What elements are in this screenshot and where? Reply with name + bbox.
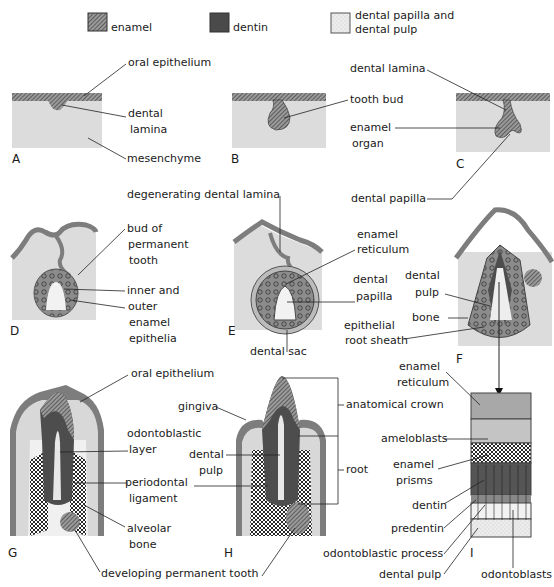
- legend-label-dentin: dentin: [233, 21, 268, 35]
- label-enamel-d: enamel: [129, 316, 170, 330]
- legend-label-enamel: enamel: [111, 21, 152, 35]
- label-layer: layer: [129, 443, 157, 457]
- panel-e-drawing: [234, 196, 355, 352]
- panel-letter-a: A: [12, 152, 20, 166]
- label-tooth-bud: tooth bud: [350, 93, 404, 107]
- label-pulp-h: pulp: [199, 464, 223, 478]
- label-tooth-d: tooth: [129, 254, 158, 268]
- legend-label-pulp: dental pulp: [355, 23, 417, 37]
- label-outer: outer: [128, 300, 157, 314]
- label-predentin: predentin: [391, 522, 444, 536]
- label-papilla-e: papilla: [356, 290, 393, 304]
- label-enamel-c: enamel: [350, 121, 391, 135]
- label-anatomical-crown: anatomical crown: [346, 398, 444, 412]
- label-alveolar: alveolar: [127, 522, 171, 536]
- label-enamel-prisms-1: enamel: [393, 458, 434, 472]
- label-bud-of: bud of: [127, 222, 162, 236]
- legend-swatch-papilla: [331, 13, 350, 33]
- label-mesenchyme: mesenchyme: [127, 152, 201, 166]
- tooth-development-figure: [0, 0, 554, 587]
- label-dental-f: dental: [405, 269, 440, 283]
- label-enamel-e: enamel: [357, 228, 398, 242]
- label-dental-papilla-c: dental papilla: [351, 192, 426, 206]
- panel-letter-d: D: [10, 324, 19, 338]
- label-dental-e: dental: [353, 273, 388, 287]
- panel-b-drawing: [232, 93, 348, 148]
- legend-label-papilla: dental papilla and: [355, 9, 454, 23]
- label-epithelia: epithelia: [129, 332, 177, 346]
- label-dental-h: dental: [189, 448, 224, 462]
- panel-letter-f: F: [456, 352, 463, 366]
- panel-letter-i: I: [470, 546, 474, 560]
- label-pulp-f: pulp: [415, 286, 439, 300]
- label-dental-pulp-i: dental pulp: [379, 568, 441, 582]
- panel-letter-h: H: [224, 546, 233, 560]
- label-ligament: ligament: [129, 492, 178, 506]
- label-odontoblasts: odontoblasts: [481, 568, 552, 582]
- label-enamel-i: enamel: [399, 360, 440, 374]
- label-dental-sac: dental sac: [250, 345, 307, 359]
- panel-g-drawing: [10, 375, 128, 572]
- label-organ-c: organ: [352, 137, 384, 151]
- label-epithelial: epithelial: [344, 319, 395, 333]
- label-bone-f: bone: [412, 311, 439, 325]
- label-developing-permanent-tooth: developing permanent tooth: [101, 567, 258, 581]
- label-root: root: [346, 463, 368, 477]
- panel-c-drawing: [395, 70, 550, 199]
- label-ameloblasts: ameloblasts: [381, 432, 448, 446]
- label-lamina-a: lamina: [130, 123, 167, 137]
- label-gingiva: gingiva: [178, 400, 218, 414]
- label-enamel-prisms-2: prisms: [396, 474, 433, 488]
- label-oral-epithelium-a: oral epithelium: [128, 56, 211, 70]
- panel-a-drawing: [12, 64, 126, 159]
- legend-swatch-dentin: [210, 13, 229, 32]
- panel-letter-g: G: [8, 546, 17, 560]
- label-oral-epithelium-g: oral epithelium: [131, 367, 214, 381]
- label-dental-a: dental: [128, 107, 163, 121]
- label-inner-and: inner and: [127, 284, 179, 298]
- panel-letter-e: E: [228, 324, 236, 338]
- label-dental-lamina-c: dental lamina: [350, 62, 426, 76]
- panel-i-drawing: [438, 372, 531, 574]
- label-reticulum-i: reticulum: [397, 376, 449, 390]
- legend-swatch-enamel: [88, 13, 107, 31]
- label-root-sheath: root sheath: [345, 334, 408, 348]
- label-dentin-i: dentin: [412, 499, 447, 513]
- label-bone-g: bone: [129, 538, 156, 552]
- panel-letter-c: C: [456, 157, 464, 171]
- label-degenerating-dental-lamina: degenerating dental lamina: [127, 188, 280, 202]
- label-periodontal: periodontal: [125, 476, 188, 490]
- label-odontoblastic: odontoblastic: [127, 427, 201, 441]
- label-odontoblastic-process: odontoblastic process: [323, 547, 443, 561]
- label-permanent: permanent: [128, 238, 189, 252]
- panel-d-drawing: [12, 224, 125, 320]
- label-reticulum-e: reticulum: [357, 243, 409, 257]
- panel-letter-b: B: [231, 152, 239, 166]
